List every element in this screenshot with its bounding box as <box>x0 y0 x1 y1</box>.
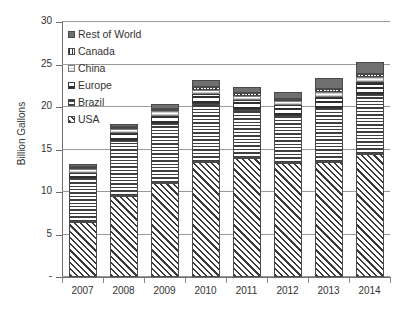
bar-segment-europe[interactable] <box>356 82 384 95</box>
bar-segment-usa[interactable] <box>151 183 179 277</box>
x-axis-tick-label: 2008 <box>102 285 146 296</box>
x-axis-tick-label: 2014 <box>348 285 392 296</box>
y-axis-tick-label: 25 <box>20 58 52 69</box>
bar-segment-canada[interactable] <box>356 74 384 77</box>
y-axis-title: Billion Gallons <box>16 79 27 189</box>
bar-segment-europe[interactable] <box>69 173 97 179</box>
bar-segment-rest-of-world[interactable] <box>356 62 384 74</box>
bar-segment-brazil[interactable] <box>69 179 97 222</box>
legend: Rest of WorldCanadaChinaEuropeBrazilUSA <box>68 26 198 128</box>
bar-segment-canada[interactable] <box>315 89 343 92</box>
bar-segment-brazil[interactable] <box>356 95 384 154</box>
legend-swatch-europe-icon <box>68 82 75 89</box>
legend-label: China <box>78 63 105 74</box>
y-axis-tick-label: 30 <box>20 15 52 26</box>
y-axis-tick-label: - <box>20 270 52 281</box>
bar-segment-china[interactable] <box>274 101 302 105</box>
bar-2011[interactable] <box>233 87 261 277</box>
x-axis-tick-label: 2013 <box>307 285 351 296</box>
bar-segment-usa[interactable] <box>356 154 384 277</box>
legend-swatch-china-icon <box>68 65 75 72</box>
bar-segment-rest-of-world[interactable] <box>274 92 302 99</box>
bar-2009[interactable] <box>151 104 179 277</box>
bar-2014[interactable] <box>356 62 384 277</box>
bar-segment-europe[interactable] <box>110 133 138 141</box>
bar-segment-rest-of-world[interactable] <box>233 87 261 94</box>
x-axis-tick-mark <box>349 278 350 283</box>
legend-swatch-usa-icon <box>68 116 75 123</box>
x-axis-tick-mark <box>390 278 391 283</box>
bar-segment-china[interactable] <box>110 129 138 133</box>
bar-segment-rest-of-world[interactable] <box>315 78 343 89</box>
legend-item-canada[interactable]: Canada <box>68 43 198 60</box>
bar-segment-china[interactable] <box>233 96 261 100</box>
legend-swatch-canada-icon <box>68 48 75 55</box>
bar-segment-rest-of-world[interactable] <box>69 164 97 167</box>
x-axis-tick-mark <box>103 278 104 283</box>
bar-2008[interactable] <box>110 124 138 277</box>
bar-segment-brazil[interactable] <box>110 141 138 196</box>
x-axis-tick-mark <box>185 278 186 283</box>
bar-segment-brazil[interactable] <box>151 124 179 183</box>
bar-segment-europe[interactable] <box>315 97 343 109</box>
x-axis-tick-mark <box>226 278 227 283</box>
y-axis-tick-label: 15 <box>20 143 52 154</box>
legend-swatch-brazil-icon <box>68 99 75 106</box>
bar-segment-usa[interactable] <box>274 163 302 277</box>
bar-segment-brazil[interactable] <box>233 110 261 158</box>
y-axis-tick-label: 5 <box>20 228 52 239</box>
bar-segment-usa[interactable] <box>69 222 97 277</box>
bar-segment-usa[interactable] <box>233 158 261 277</box>
legend-item-row[interactable]: Rest of World <box>68 26 198 43</box>
y-axis-tick-label: 20 <box>20 100 52 111</box>
x-axis-tick-label: 2011 <box>225 285 269 296</box>
legend-label: Rest of World <box>78 29 141 40</box>
bar-2012[interactable] <box>274 92 302 277</box>
bar-segment-brazil[interactable] <box>274 116 302 164</box>
legend-item-europe[interactable]: Europe <box>68 77 198 94</box>
bar-segment-usa[interactable] <box>110 196 138 277</box>
x-axis-tick-label: 2009 <box>143 285 187 296</box>
x-axis-tick-mark <box>62 278 63 283</box>
x-axis-tick-label: 2012 <box>266 285 310 296</box>
legend-label: USA <box>78 114 100 125</box>
legend-label: Brazil <box>78 97 104 108</box>
legend-label: Europe <box>78 80 112 91</box>
x-axis-tick-mark <box>308 278 309 283</box>
gridline <box>62 21 390 22</box>
bar-segment-usa[interactable] <box>192 162 220 277</box>
legend-item-brazil[interactable]: Brazil <box>68 94 198 111</box>
bar-segment-china[interactable] <box>356 77 384 82</box>
bar-segment-china[interactable] <box>315 92 343 97</box>
bar-segment-china[interactable] <box>69 169 97 173</box>
x-axis-tick-label: 2010 <box>184 285 228 296</box>
x-axis-tick-mark <box>144 278 145 283</box>
bar-2007[interactable] <box>69 164 97 277</box>
bar-segment-europe[interactable] <box>274 105 302 115</box>
legend-item-usa[interactable]: USA <box>68 111 198 128</box>
stacked-bar-chart: Billion Gallons -51015202530 20072008200… <box>0 0 405 312</box>
bar-segment-europe[interactable] <box>233 100 261 109</box>
x-axis-tick-label: 2007 <box>61 285 105 296</box>
x-axis-tick-mark <box>267 278 268 283</box>
bar-segment-canada[interactable] <box>69 167 97 169</box>
bar-2013[interactable] <box>315 78 343 277</box>
legend-label: Canada <box>78 46 115 57</box>
y-axis-tick-label: 10 <box>20 185 52 196</box>
legend-swatch-row-icon <box>68 31 75 38</box>
bar-segment-canada[interactable] <box>274 99 302 102</box>
bar-segment-brazil[interactable] <box>315 109 343 163</box>
bar-segment-usa[interactable] <box>315 162 343 277</box>
legend-item-china[interactable]: China <box>68 60 198 77</box>
bar-segment-canada[interactable] <box>233 93 261 96</box>
